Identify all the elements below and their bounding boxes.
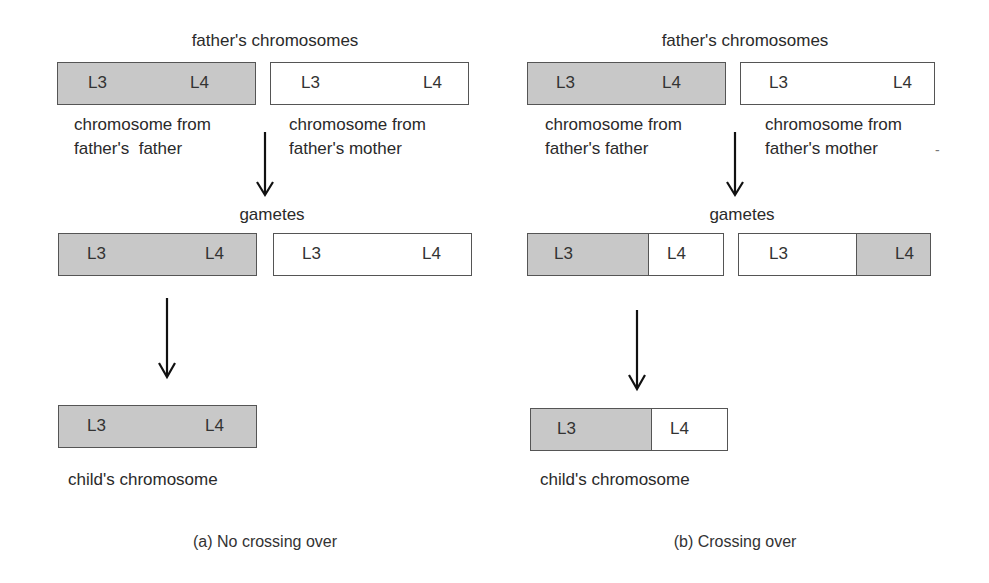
caption-crossing-over: (b) Crossing over (674, 532, 797, 552)
down-arrow-icon (255, 130, 277, 198)
locus-L4: L4 (205, 244, 224, 264)
locus-L3: L3 (556, 73, 575, 93)
caption-no-crossing-over: (a) No crossing over (193, 532, 337, 552)
chromosome-from-fathers-father: L3 L4 (527, 62, 726, 105)
gametes-title: gametes (709, 205, 774, 225)
gametes-title: gametes (239, 205, 304, 225)
locus-L4: L4 (670, 419, 689, 439)
locus-L4: L4 (893, 73, 912, 93)
label-fathers-father-line1: chromosome from (545, 115, 682, 135)
locus-L4: L4 (662, 73, 681, 93)
down-arrow-icon (725, 130, 747, 198)
child-chromosome-label: child's chromosome (540, 470, 690, 490)
gamete-maternal: L3 L4 (273, 233, 472, 276)
label-fathers-mother-line1: chromosome from (289, 115, 426, 135)
chromosome-from-fathers-mother: L3 L4 (740, 62, 935, 105)
chromosome-from-fathers-mother: L3 L4 (270, 62, 469, 105)
locus-L3: L3 (88, 73, 107, 93)
down-arrow-icon (157, 296, 179, 380)
locus-L3: L3 (87, 416, 106, 436)
label-fathers-father-line2: father's father (74, 139, 182, 159)
locus-L4: L4 (205, 416, 224, 436)
stray-mark: - (935, 140, 940, 160)
locus-L3: L3 (301, 73, 320, 93)
locus-L4: L4 (423, 73, 442, 93)
label-fathers-mother-line2: father's mother (765, 139, 878, 159)
locus-L3: L3 (87, 244, 106, 264)
locus-L4: L4 (190, 73, 209, 93)
gamete-recombinant-2: L3 L4 (738, 233, 931, 276)
gamete-paternal: L3 L4 (58, 233, 257, 276)
locus-L4: L4 (667, 244, 686, 264)
gamete-recombinant-1: L3 L4 (527, 233, 724, 276)
label-fathers-mother-line2: father's mother (289, 139, 402, 159)
locus-L3: L3 (769, 73, 788, 93)
locus-L3: L3 (557, 419, 576, 439)
locus-L4: L4 (422, 244, 441, 264)
down-arrow-icon (627, 308, 649, 392)
locus-L4: L4 (895, 244, 914, 264)
label-fathers-father-line2: father's father (545, 139, 648, 159)
chromosome-from-fathers-father: L3 L4 (57, 62, 256, 105)
child-chromosome-label: child's chromosome (68, 470, 218, 490)
label-fathers-mother-line1: chromosome from (765, 115, 902, 135)
locus-L3: L3 (554, 244, 573, 264)
child-chromosome: L3 L4 (58, 405, 257, 448)
child-chromosome: L3 L4 (530, 408, 728, 451)
locus-L3: L3 (769, 244, 788, 264)
locus-L3: L3 (302, 244, 321, 264)
fathers-chromosomes-title: father's chromosomes (192, 31, 359, 51)
label-fathers-father-line1: chromosome from (74, 115, 211, 135)
fathers-chromosomes-title: father's chromosomes (662, 31, 829, 51)
